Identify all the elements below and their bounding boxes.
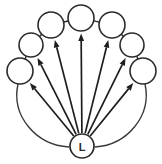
hub-node-label: L xyxy=(79,141,86,153)
ring-node-1[interactable] xyxy=(7,58,33,84)
spoke-arrow-to-node-5 xyxy=(85,40,109,133)
spoke-arrow-to-node-7 xyxy=(90,83,133,136)
spoke-arrow-to-node-1-shaft xyxy=(35,89,74,136)
ring-node-3[interactable] xyxy=(38,12,64,38)
outer-arc-right xyxy=(95,84,146,147)
spoke-arrow-to-node-4-shaft xyxy=(81,41,82,133)
spoke-arrow-to-node-3-head xyxy=(54,40,60,48)
ring-node-5[interactable] xyxy=(99,12,125,38)
spoke-arrow-to-node-6 xyxy=(88,58,126,134)
ring-node-4[interactable] xyxy=(68,5,94,31)
spoke-arrow-to-node-6-head xyxy=(120,58,126,66)
spoke-arrow-to-node-4 xyxy=(78,33,84,133)
spoke-arrow-to-node-2-head xyxy=(38,58,44,66)
spoke-arrow-to-node-2 xyxy=(38,58,77,134)
diagram-canvas: L xyxy=(0,0,162,164)
ring-node-2[interactable] xyxy=(19,33,43,57)
diagram-root: L xyxy=(0,0,162,164)
spoke-arrow-to-node-3 xyxy=(54,40,79,133)
hub-group: L xyxy=(70,134,94,158)
ring-node-6[interactable] xyxy=(120,33,144,57)
ring-link-4-5 xyxy=(94,21,100,22)
ring-node-7[interactable] xyxy=(130,58,156,84)
spoke-arrow-group xyxy=(30,33,133,135)
spoke-arrow-to-node-4-head xyxy=(78,33,84,41)
spoke-arrow-to-node-7-shaft xyxy=(90,89,128,136)
spoke-arrow-to-node-5-head xyxy=(104,40,110,48)
outer-arc-left xyxy=(17,84,69,147)
